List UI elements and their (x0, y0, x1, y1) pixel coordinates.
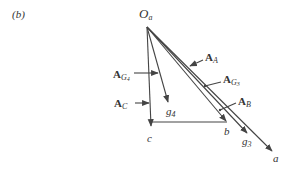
leader-A_G3 (205, 82, 221, 86)
vector-c (147, 27, 151, 126)
vector-b (147, 27, 226, 121)
point-b-label: b (224, 126, 230, 137)
point-g3-label: g3 (242, 136, 252, 149)
vector-label-A_G3: AG3 (223, 74, 240, 87)
point-g4-label: g4 (166, 106, 176, 119)
panel-label: (b) (12, 9, 25, 20)
vector-label-A_C: AC (114, 98, 127, 111)
vector-label-A_B: AB (238, 96, 251, 109)
vector-label-A_A: AA (205, 52, 218, 65)
point-c-label: c (147, 133, 152, 144)
vector-a (147, 27, 272, 151)
acceleration-polygon (0, 0, 299, 170)
leader-A_A (190, 60, 203, 66)
origin-label: Oa (139, 7, 152, 22)
vector-label-A_G4: AG4 (113, 69, 130, 82)
point-a-label: a (273, 153, 279, 164)
